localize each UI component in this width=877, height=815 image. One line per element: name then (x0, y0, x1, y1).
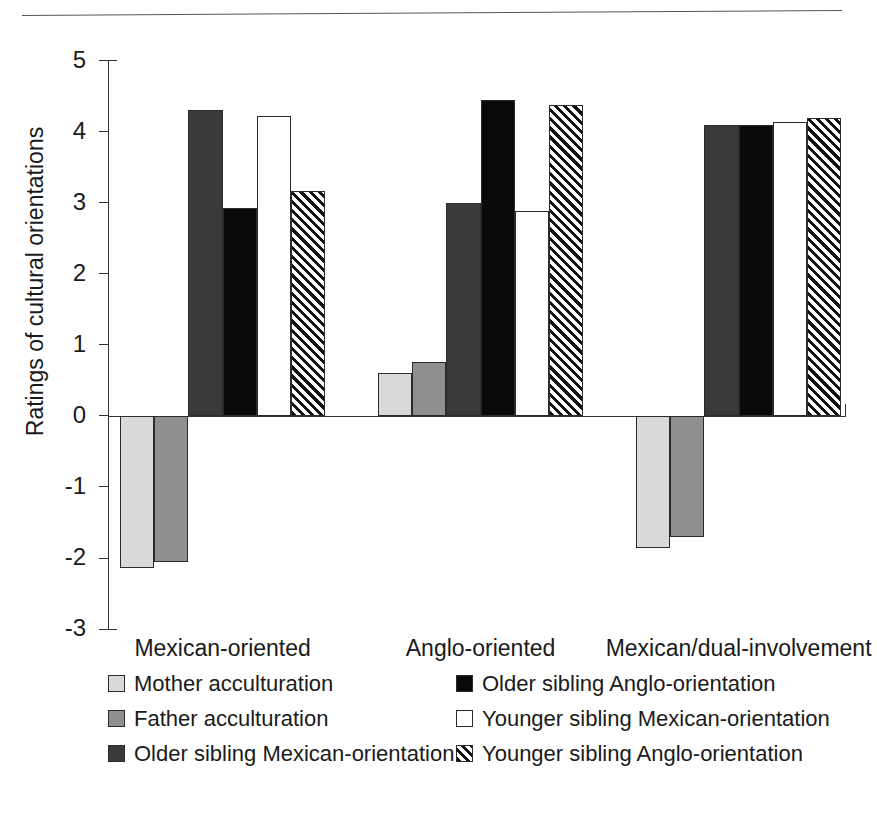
bar (120, 416, 154, 568)
legend-swatch-icon (108, 675, 125, 692)
legend-item[interactable]: Younger sibling Mexican-orientation (456, 701, 816, 736)
legend-label: Older sibling Anglo-orientation (482, 673, 776, 695)
legend-item[interactable]: Father acculturation (108, 701, 468, 736)
legend-label: Younger sibling Anglo-orientation (482, 743, 803, 765)
legend-label: Mother acculturation (134, 673, 333, 695)
legend-swatch-icon (108, 710, 125, 727)
legend-item[interactable]: Older sibling Anglo-orientation (456, 666, 816, 701)
top-divider-rule (22, 10, 842, 16)
legend-swatch-icon (108, 745, 125, 762)
bar (515, 211, 549, 416)
y-axis-bottom-cap (108, 629, 117, 630)
legend-item[interactable]: Older sibling Mexican-orientation (108, 736, 468, 771)
bar (636, 416, 670, 548)
y-tick-mark (99, 415, 109, 416)
bar (154, 416, 188, 562)
y-tick-mark (99, 131, 109, 132)
bar (670, 416, 704, 537)
bar (257, 116, 291, 416)
bar (223, 208, 257, 416)
chart-legend: Mother acculturationFather acculturation… (108, 666, 838, 781)
y-axis-title: Ratings of cultural orientations (22, 47, 49, 517)
y-axis-top-cap (108, 60, 117, 61)
bar (739, 125, 773, 416)
x-axis-right-cap (845, 404, 846, 417)
y-tick-mark (99, 486, 109, 487)
legend-item[interactable]: Younger sibling Anglo-orientation (456, 736, 816, 771)
bar (481, 100, 515, 416)
legend-swatch-icon (456, 745, 473, 762)
y-tick-mark (99, 60, 109, 61)
legend-label: Younger sibling Mexican-orientation (482, 708, 830, 730)
zero-baseline (108, 416, 846, 417)
legend-label: Father acculturation (134, 708, 328, 730)
bar (704, 125, 738, 416)
legend-column-left: Mother acculturationFather acculturation… (108, 666, 468, 771)
legend-label: Older sibling Mexican-orientation (134, 743, 454, 765)
bar (188, 110, 222, 416)
bar (807, 118, 841, 416)
bar (291, 191, 325, 416)
legend-swatch-icon (456, 675, 473, 692)
y-tick-mark (99, 273, 109, 274)
legend-swatch-icon (456, 710, 473, 727)
x-category-label: Mexican/dual-involvement (539, 636, 877, 661)
bar (549, 105, 583, 416)
legend-item[interactable]: Mother acculturation (108, 666, 468, 701)
legend-column-right: Older sibling Anglo-orientationYounger s… (456, 666, 816, 771)
y-tick-mark (99, 558, 109, 559)
bar (446, 203, 480, 416)
y-tick-mark (99, 202, 109, 203)
y-tick-mark (99, 344, 109, 345)
bar (378, 373, 412, 416)
y-tick-label: -2 (40, 545, 86, 569)
bar (412, 362, 446, 416)
bar (773, 122, 807, 416)
y-tick-mark (99, 629, 109, 630)
